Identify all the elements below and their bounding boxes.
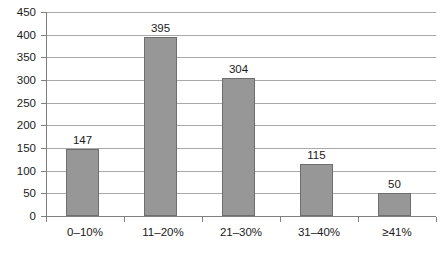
gridline-350: [46, 57, 436, 58]
bar-chart: 147 395 304 115 50 450 400 350 300 250 2…: [0, 0, 448, 259]
bar-0-10[interactable]: [66, 149, 99, 216]
x-tick-label-0-10: 0–10%: [67, 227, 103, 239]
y-tick-label-450: 450: [17, 7, 36, 19]
y-tick-mark-400: [41, 35, 46, 36]
y-tick-label-250: 250: [17, 98, 36, 110]
x-tick-mark-3: [280, 217, 281, 222]
data-label-41-plus: 50: [388, 179, 401, 191]
y-tick-mark-250: [41, 103, 46, 104]
x-tick-mark-0: [46, 217, 47, 222]
y-tick-label-300: 300: [17, 75, 36, 87]
y-tick-label-0: 0: [30, 211, 36, 223]
y-tick-mark-300: [41, 80, 46, 81]
gridline-450: [46, 12, 436, 13]
x-axis-line: [46, 216, 436, 217]
gridline-400: [46, 35, 436, 36]
y-tick-label-200: 200: [17, 120, 36, 132]
data-label-0-10: 147: [73, 135, 92, 147]
data-label-31-40: 115: [307, 150, 325, 162]
y-tick-mark-50: [41, 193, 46, 194]
y-tick-label-350: 350: [17, 52, 36, 64]
y-tick-label-400: 400: [17, 30, 36, 42]
x-tick-label-31-40: 31–40%: [298, 227, 340, 239]
x-tick-mark-2: [202, 217, 203, 222]
x-tick-label-11-20: 11–20%: [142, 227, 183, 239]
x-tick-label-21-30: 21–30%: [220, 227, 262, 239]
x-tick-label-41-plus: ≥41%: [382, 227, 411, 239]
y-tick-mark-100: [41, 171, 46, 172]
x-tick-mark-1: [124, 217, 125, 222]
bar-11-20[interactable]: [144, 37, 177, 216]
y-tick-label-100: 100: [17, 166, 36, 178]
x-tick-mark-4: [358, 217, 359, 222]
data-label-11-20: 395: [151, 23, 170, 35]
y-tick-label-150: 150: [17, 143, 36, 155]
y-axis-line: [46, 12, 47, 217]
bar-41-plus[interactable]: [378, 193, 411, 216]
bar-21-30[interactable]: [222, 78, 255, 216]
y-tick-mark-200: [41, 125, 46, 126]
bar-31-40[interactable]: [300, 164, 333, 216]
data-label-21-30: 304: [229, 64, 248, 76]
y-tick-mark-350: [41, 57, 46, 58]
y-tick-label-50: 50: [23, 188, 36, 200]
y-tick-mark-450: [41, 12, 46, 13]
x-tick-mark-5: [436, 217, 437, 222]
y-tick-mark-150: [41, 148, 46, 149]
